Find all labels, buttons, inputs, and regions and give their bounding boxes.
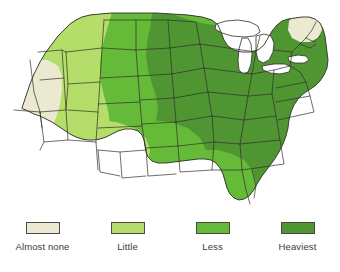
us-map-svg bbox=[0, 0, 340, 218]
intensity-bands bbox=[0, 0, 340, 218]
band-almost-none-california bbox=[14, 60, 62, 140]
legend-swatch-less bbox=[196, 222, 230, 234]
map-area bbox=[0, 0, 340, 218]
legend-item-almost-none: Almost none bbox=[0, 222, 85, 252]
legend-item-little: Little bbox=[85, 222, 170, 252]
legend-swatch-little bbox=[111, 222, 145, 234]
legend-item-less: Less bbox=[170, 222, 255, 252]
legend-swatch-almost-none bbox=[26, 222, 60, 234]
legend-swatch-heaviest bbox=[281, 222, 315, 234]
legend-label-heaviest: Heaviest bbox=[279, 241, 317, 252]
map-legend: Almost none Little Less Heaviest bbox=[0, 222, 340, 272]
legend-item-heaviest: Heaviest bbox=[255, 222, 340, 252]
legend-label-less: Less bbox=[202, 241, 222, 252]
us-intensity-map-figure: Almost none Little Less Heaviest bbox=[0, 0, 340, 272]
legend-label-little: Little bbox=[117, 241, 138, 252]
legend-label-almost-none: Almost none bbox=[16, 241, 70, 252]
